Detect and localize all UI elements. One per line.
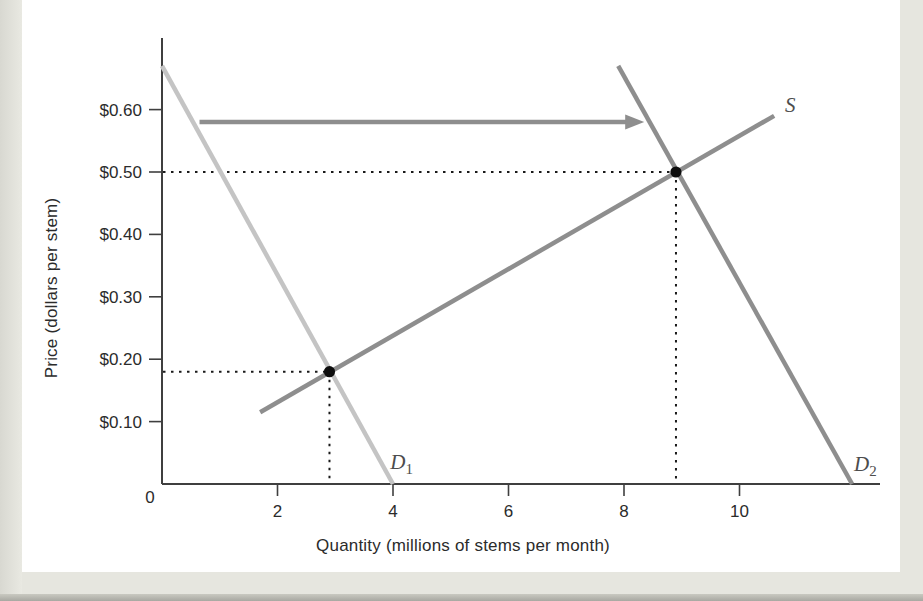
y-tick-label: $0.50 xyxy=(99,163,142,182)
curve-supply xyxy=(260,116,774,412)
x-tick-label: 10 xyxy=(730,502,749,521)
x-axis-title: Quantity (millions of stems per month) xyxy=(316,536,610,556)
y-tick-label: $0.30 xyxy=(99,288,142,307)
equilibrium-dot-initial xyxy=(324,366,335,377)
curve-demand-1 xyxy=(162,66,393,484)
y-tick-label: $0.20 xyxy=(99,350,142,369)
curve-label-demand-1: D1 xyxy=(389,450,413,477)
x-tick-label: 8 xyxy=(619,502,628,521)
x-tick-label: 6 xyxy=(504,502,513,521)
y-tick-label: $0.60 xyxy=(99,101,142,120)
origin-label: 0 xyxy=(145,488,154,507)
curve-demand-2 xyxy=(618,66,852,484)
y-axis-title: Price (dollars per stem) xyxy=(42,198,62,379)
y-tick-label: $0.40 xyxy=(99,225,142,244)
supply-demand-chart: 0246810$0.60$0.50$0.40$0.30$0.20$0.10D1D… xyxy=(0,0,923,601)
curve-label-supply: S xyxy=(785,93,796,117)
x-tick-label: 2 xyxy=(273,502,282,521)
demand-shift-arrow-head xyxy=(625,115,644,130)
x-tick-label: 4 xyxy=(388,502,397,521)
equilibrium-dot-new xyxy=(670,166,681,177)
curve-label-demand-2: D2 xyxy=(853,452,877,479)
y-tick-label: $0.10 xyxy=(99,413,142,432)
